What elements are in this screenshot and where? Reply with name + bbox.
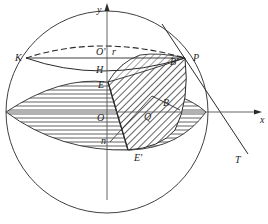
sphere-diagram	[0, 0, 268, 224]
label-n: n	[101, 136, 106, 146]
label-E: E	[98, 80, 104, 90]
label-O: O	[97, 113, 104, 123]
label-B: B	[163, 98, 169, 108]
label-B-prime: B'	[170, 57, 178, 67]
label-P: P	[193, 53, 199, 63]
label-T: T	[235, 155, 241, 165]
label-r: r	[112, 47, 116, 57]
label-x: x	[260, 115, 264, 125]
label-H: H	[96, 65, 103, 75]
label-O-prime: O'	[96, 47, 105, 57]
label-K: K	[15, 53, 22, 63]
label-y: y	[97, 5, 101, 15]
label-Q: Q	[144, 112, 151, 122]
y-axis-arrow	[105, 3, 110, 11]
label-E-prime: E'	[134, 153, 142, 163]
